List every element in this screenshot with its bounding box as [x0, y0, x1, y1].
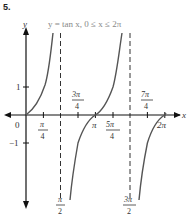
- y-axis-down-arrow-icon: [23, 201, 29, 209]
- x-axis-right-arrow-icon: [174, 112, 181, 118]
- tick-7pi-over-4-num: 7π: [141, 90, 150, 99]
- tick-pi-over-4-den: 4: [41, 132, 45, 141]
- x-axis-label: x: [181, 110, 186, 120]
- tick-5pi-over-4-den: 4: [110, 132, 114, 141]
- chart-title: y = tan x, 0 ≤ x ≤ 2π: [48, 19, 122, 29]
- origin-label: 0: [15, 120, 20, 130]
- tick-pi-over-4-num: π: [40, 120, 45, 129]
- y-tick-label-1: 1: [16, 82, 21, 92]
- tick-5pi-over-4-num: 5π: [106, 120, 115, 129]
- tick-7pi-over-4-den: 4: [144, 102, 148, 111]
- tick-pi-label: π: [92, 120, 97, 130]
- asymptote-pi-over-2-den: 2: [58, 207, 62, 216]
- asymptote-pi-over-2-num: π: [58, 195, 63, 204]
- y-tick-label-neg-1: −1: [9, 138, 19, 148]
- tick-3pi-over-4-den: 4: [75, 102, 79, 111]
- x-axis-left-arrow-icon: [4, 112, 11, 118]
- tan-branch-1: [26, 33, 53, 115]
- y-axis-label: y: [22, 19, 27, 29]
- asymptote-3pi-over-2-den: 2: [127, 207, 131, 216]
- asymptote-3pi-over-2-num: 3π: [123, 195, 133, 204]
- tick-3pi-over-4-num: 3π: [71, 90, 81, 99]
- tick-2pi-label: 2π: [157, 120, 167, 130]
- tangent-graph: y = tan x, 0 ≤ x ≤ 2π x y 1 −1 0 π 4 π 5…: [0, 0, 189, 219]
